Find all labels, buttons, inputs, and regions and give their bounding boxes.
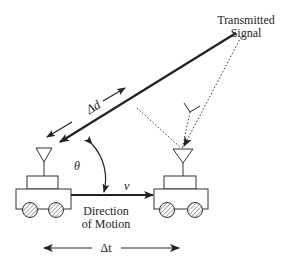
antenna-icon — [173, 149, 193, 163]
wheel-icon — [160, 203, 175, 218]
direction-label-line2: of Motion — [82, 217, 130, 231]
transmitted-signal-dotted-line — [184, 37, 241, 146]
perpendicular-dotted-line — [182, 112, 190, 150]
wheel-icon — [188, 203, 203, 218]
transmitted-label-line2: Signal — [231, 26, 262, 40]
theta-label: θ — [74, 159, 80, 173]
vehicle-end — [154, 149, 208, 218]
signal-path-line — [60, 33, 236, 142]
vehicle-start — [16, 148, 71, 218]
doppler-diagram: Δd Transmitted Signal θ v Direction of M… — [0, 0, 286, 261]
delta-d-label: Δd — [82, 97, 103, 118]
right-angle-marker — [184, 103, 200, 112]
antenna-icon — [36, 148, 52, 162]
wheel-icon — [23, 203, 38, 218]
delta-d-arrows — [47, 88, 125, 137]
theta-angle-arc — [92, 144, 106, 192]
velocity-label: v — [124, 179, 130, 193]
projection-dotted-line — [137, 108, 181, 148]
transmitted-label-line1: Transmitted — [217, 13, 275, 27]
wheel-icon — [49, 203, 64, 218]
direction-label-line1: Direction — [83, 204, 128, 218]
delta-t-label: Δt — [100, 241, 112, 255]
